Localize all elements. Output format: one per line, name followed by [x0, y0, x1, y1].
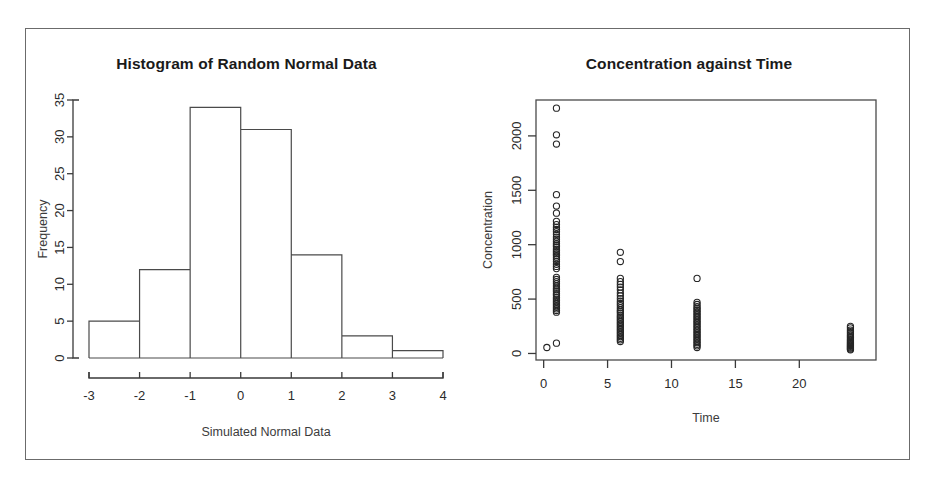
y-tick-label: 20: [52, 203, 67, 217]
y-tick-label: 1500: [509, 176, 524, 205]
panel-histogram: Histogram of Random Normal Data 05101520…: [25, 28, 468, 460]
x-tick-label: 15: [728, 376, 742, 391]
y-tick-label: 25: [52, 166, 67, 180]
data-point: [553, 340, 559, 346]
data-point: [553, 141, 559, 147]
y-tick-label: 2000: [509, 121, 524, 150]
data-point: [553, 132, 559, 138]
y-tick-label: 5: [52, 318, 67, 325]
y-tick-label: 0: [509, 350, 524, 357]
x-tick-label: -1: [184, 388, 196, 403]
data-point: [553, 192, 559, 198]
x-axis-label: Time: [692, 411, 719, 425]
data-point: [553, 203, 559, 209]
x-axis-label: Simulated Normal Data: [201, 425, 330, 439]
x-tick-label: 3: [389, 388, 396, 403]
x-axis-line: [89, 372, 443, 378]
x-tick-label: -3: [83, 388, 95, 403]
data-point: [617, 249, 623, 255]
scatter-plot: 0500100015002000Concentration05101520Tim…: [468, 28, 910, 460]
x-tick-label: 4: [439, 388, 446, 403]
x-tick-label: 0: [237, 388, 244, 403]
y-axis-line: [73, 100, 79, 358]
x-tick-label: 0: [540, 376, 547, 391]
y-tick-label: 15: [52, 240, 67, 254]
x-tick-label: 5: [604, 376, 611, 391]
data-point: [544, 344, 550, 350]
histogram-plot: 05101520253035Frequency-3-2-101234Simula…: [25, 28, 468, 460]
y-axis-label: Frequency: [36, 199, 50, 259]
scatter-points: [544, 105, 854, 353]
figure-canvas: Histogram of Random Normal Data 05101520…: [0, 0, 934, 488]
y-tick-label: 30: [52, 130, 67, 144]
panel-scatter: Concentration against Time 0500100015002…: [468, 28, 910, 460]
x-tick-label: -2: [134, 388, 146, 403]
y-tick-label: 35: [52, 93, 67, 107]
x-tick-label: 10: [664, 376, 678, 391]
histogram-bars: [89, 107, 443, 358]
x-tick-label: 1: [288, 388, 295, 403]
y-tick-label: 10: [52, 277, 67, 291]
x-tick-label: 20: [792, 376, 806, 391]
y-tick-label: 0: [52, 354, 67, 361]
x-tick-label: 2: [338, 388, 345, 403]
data-point: [694, 275, 700, 281]
plot-box-frame: [536, 100, 876, 360]
data-point: [553, 105, 559, 111]
y-axis-label: Concentration: [481, 191, 495, 269]
data-point: [617, 258, 623, 264]
y-tick-label: 500: [509, 288, 524, 310]
y-tick-label: 1000: [509, 230, 524, 259]
data-point: [553, 210, 559, 216]
